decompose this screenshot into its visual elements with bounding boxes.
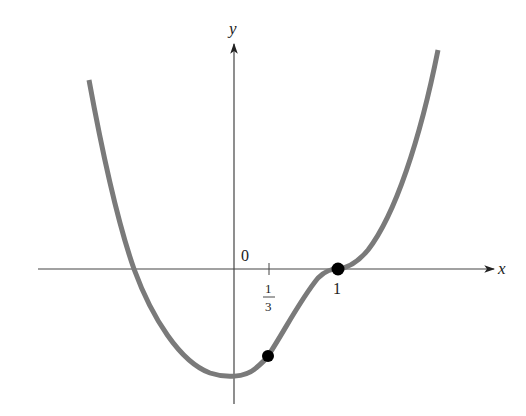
inflection-point-one-third (262, 350, 274, 362)
y-axis-label: y (227, 19, 237, 38)
origin-label: 0 (241, 247, 249, 264)
graph-canvas: y x 0 1 3 1 (0, 0, 526, 416)
tick-label-third-denominator: 3 (265, 299, 272, 314)
tick-label-one: 1 (333, 280, 341, 297)
x-axis-label: x (497, 259, 506, 278)
function-curve (89, 50, 438, 376)
inflection-point-one (332, 263, 345, 276)
tick-label-third-numerator: 1 (265, 281, 272, 296)
